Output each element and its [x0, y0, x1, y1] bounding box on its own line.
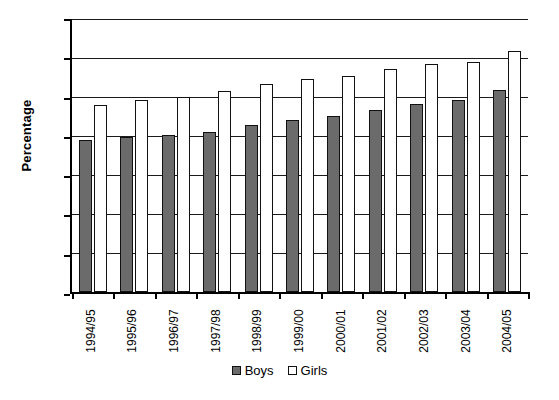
bar-girls-1995-96 — [135, 100, 148, 292]
x-axis-tick-label-cell: 1998/99 — [237, 301, 279, 361]
bar-group — [487, 19, 528, 292]
bar-group — [238, 19, 279, 292]
bar-girls-1996-97 — [177, 97, 190, 292]
bar-group — [155, 19, 196, 292]
x-axis-tick-label-cell: 2000/01 — [320, 301, 362, 361]
bar-girls-1997-98 — [218, 91, 231, 292]
x-axis-tick-mark — [321, 292, 323, 299]
legend-label: Girls — [301, 363, 328, 378]
x-axis-tick-label-cell: 1999/00 — [278, 301, 320, 361]
bar-group — [279, 19, 320, 292]
x-axis-tick-label: 1998/99 — [250, 309, 264, 352]
y-axis-tick-mark — [64, 176, 70, 178]
x-axis-tick-mark — [362, 292, 364, 299]
x-axis-tick-label-cell: 1997/98 — [195, 301, 237, 361]
x-axis-tick-label: 1997/98 — [209, 309, 223, 352]
bar-boys-1995-96 — [120, 137, 133, 292]
bar-group — [445, 19, 486, 292]
y-axis-title: Percentage — [19, 66, 34, 206]
bar-girls-2001-02 — [384, 69, 397, 292]
x-axis-tick-label-cell: 2001/02 — [361, 301, 403, 361]
y-axis-tick-mark — [64, 19, 70, 21]
bar-group — [321, 19, 362, 292]
bar-boys-1999-00 — [286, 120, 299, 292]
x-axis-tick-mark — [238, 292, 240, 299]
x-axis-tick-label: 2002/03 — [417, 309, 431, 352]
bar-boys-1998-99 — [245, 125, 258, 292]
x-axis-tick-mark — [72, 292, 74, 299]
x-axis-tick-label-cell: 1994/95 — [70, 301, 112, 361]
legend-item-girls: Girls — [288, 363, 328, 378]
x-axis-tick-labels: 1994/951995/961996/971997/981998/991999/… — [70, 301, 528, 361]
bar-girls-2004-05 — [508, 51, 521, 292]
y-axis-tick-mark — [64, 58, 70, 60]
bar-girls-2000-01 — [342, 76, 355, 292]
x-axis-tick-label: 2003/04 — [459, 309, 473, 352]
x-axis-tick-label: 2001/02 — [375, 309, 389, 352]
bar-group — [404, 19, 445, 292]
legend-item-boys: Boys — [232, 363, 274, 378]
x-axis-tick-mark — [487, 292, 489, 299]
x-axis-tick-label: 1994/95 — [84, 309, 98, 352]
x-axis-tick-mark — [279, 292, 281, 299]
bar-chart: Percentage 706050403020100 1994/951995/9… — [0, 0, 559, 400]
bar-boys-2001-02 — [369, 110, 382, 292]
bar-girls-1999-00 — [301, 79, 314, 292]
x-axis-tick-label: 1996/97 — [167, 309, 181, 352]
legend-swatch-boys — [232, 366, 241, 375]
x-axis-tick-label: 2000/01 — [334, 309, 348, 352]
bar-girls-2003-04 — [467, 62, 480, 292]
x-axis-tick-mark — [528, 292, 530, 299]
chart-legend: BoysGirls — [0, 363, 559, 378]
x-axis-tick-label-cell: 2003/04 — [445, 301, 487, 361]
bar-group — [72, 19, 113, 292]
bar-girls-1998-99 — [260, 84, 273, 292]
y-axis-tick-mark — [64, 98, 70, 100]
x-axis-tick-label: 1999/00 — [292, 309, 306, 352]
x-axis-tick-label-cell: 2004/05 — [486, 301, 528, 361]
bar-group — [362, 19, 403, 292]
y-axis-tick-mark — [64, 294, 70, 296]
bar-boys-2000-01 — [327, 116, 340, 292]
bar-group — [113, 19, 154, 292]
x-axis-tick-label-cell: 1995/96 — [112, 301, 154, 361]
bar-boys-1996-97 — [162, 135, 175, 292]
x-axis-tick-mark — [155, 292, 157, 299]
bar-boys-2002-03 — [410, 104, 423, 292]
x-axis-tick-mark — [113, 292, 115, 299]
bars-layer — [72, 19, 528, 292]
x-axis-tick-mark — [196, 292, 198, 299]
bar-boys-1994-95 — [79, 140, 92, 292]
y-axis-tick-mark — [64, 215, 70, 217]
x-axis-tick-mark — [404, 292, 406, 299]
legend-swatch-girls — [288, 366, 297, 375]
y-axis-tick-mark — [64, 137, 70, 139]
x-axis-tick-label: 2004/05 — [500, 309, 514, 352]
plot-area — [70, 19, 528, 294]
bar-group — [196, 19, 237, 292]
x-axis-tick-label: 1995/96 — [125, 309, 139, 352]
legend-label: Boys — [245, 363, 274, 378]
y-axis-tick-mark — [64, 255, 70, 257]
bar-boys-1997-98 — [203, 132, 216, 292]
bar-boys-2004-05 — [493, 90, 506, 292]
x-axis-tick-label-cell: 1996/97 — [153, 301, 195, 361]
bar-girls-2002-03 — [425, 64, 438, 292]
x-axis-tick-mark — [445, 292, 447, 299]
bar-girls-1994-95 — [94, 105, 107, 292]
bar-boys-2003-04 — [452, 100, 465, 292]
x-axis-tick-label-cell: 2002/03 — [403, 301, 445, 361]
